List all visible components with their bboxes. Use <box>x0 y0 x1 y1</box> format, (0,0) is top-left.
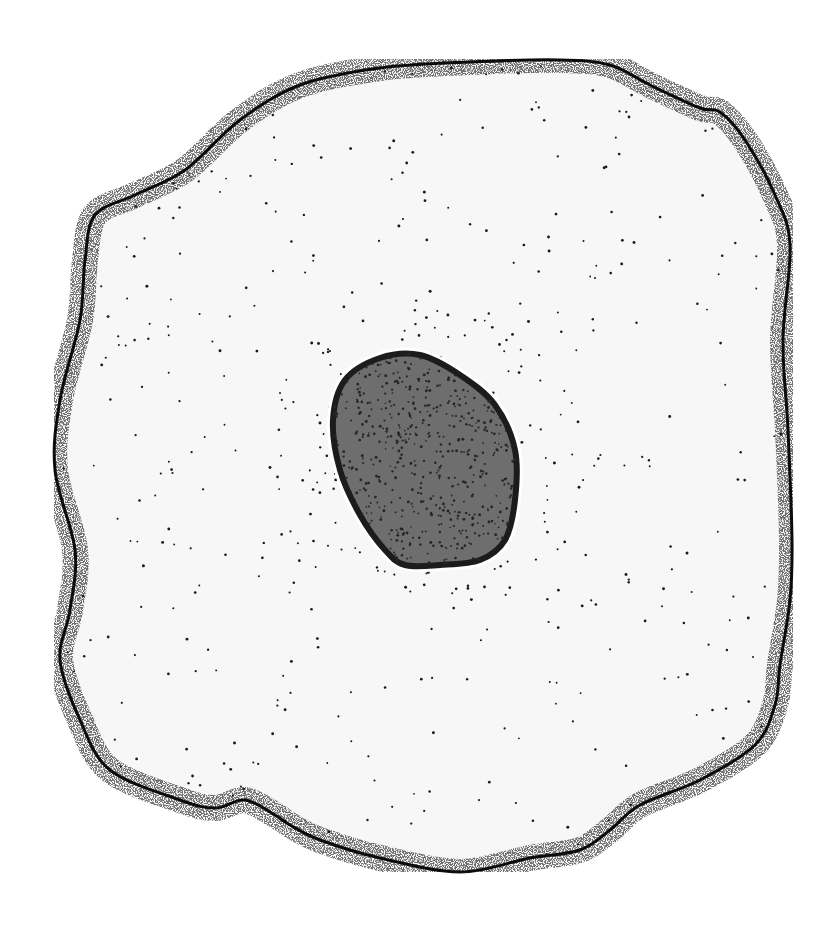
cell-illustration <box>0 0 835 938</box>
